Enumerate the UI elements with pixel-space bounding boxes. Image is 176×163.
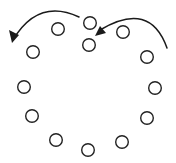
curved-arrow-shaft [100,18,167,48]
curved-arrow-shaft [13,11,79,40]
circle-node-13 [117,26,130,39]
circle-node-11 [149,82,162,95]
circle-node-10 [141,112,154,125]
circle-node-1 [84,17,97,30]
circle-node-5 [18,81,31,94]
circle-node-12 [141,51,154,64]
nodes-layer [18,17,162,157]
circle-node-2 [83,39,96,52]
circle-node-6 [26,110,39,123]
circle-node-7 [50,134,63,147]
circle-node-8 [82,144,95,157]
arrow-left-icon [9,11,79,43]
circle-node-4 [27,46,40,59]
arrow-right-icon [95,18,167,48]
circle-node-9 [116,136,129,149]
ring-diagram [0,0,176,163]
circle-node-3 [52,23,65,36]
